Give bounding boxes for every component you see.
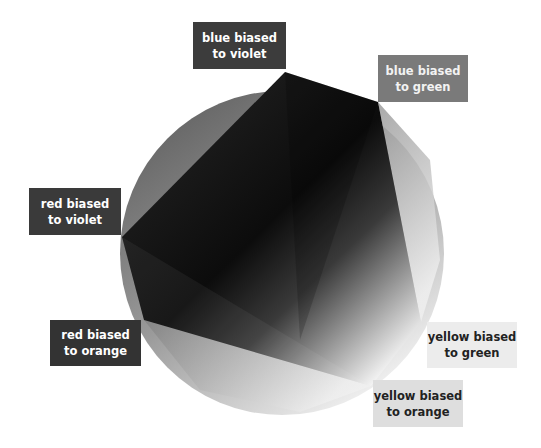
label-line-2: to orange [374,404,463,420]
label-line-2: to violet [202,46,277,62]
label-line-2: to violet [41,212,110,228]
label-blue-biased-to-green: blue biased to green [378,55,468,102]
label-red-biased-to-violet: red biased to violet [29,188,121,235]
label-line-1: yellow biased [428,329,517,345]
label-blue-biased-to-violet: blue biased to violet [193,22,286,69]
label-yellow-biased-to-orange: yellow biased to orange [373,380,463,427]
label-line-1: blue biased [386,63,461,79]
color-wheel-diagram: blue biased to violet blue biased to gre… [0,0,541,448]
label-line-1: blue biased [202,30,277,46]
label-yellow-biased-to-green: yellow biased to green [427,322,517,368]
label-red-biased-to-orange: red biased to orange [50,320,141,366]
label-line-2: to orange [61,343,130,359]
label-line-1: red biased [41,196,110,212]
label-line-2: to green [428,345,517,361]
label-line-1: red biased [61,327,130,343]
label-line-2: to green [386,79,461,95]
label-line-1: yellow biased [374,388,463,404]
